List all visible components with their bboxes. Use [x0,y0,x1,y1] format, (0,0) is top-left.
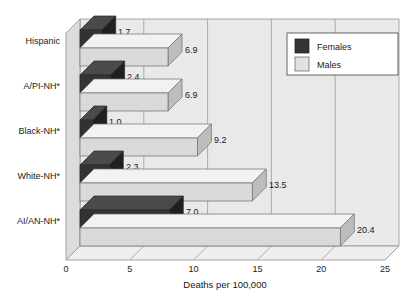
xtick-10: 10 [189,264,199,274]
category-label-api: A/PI-NH* [23,81,60,91]
xtick-5: 5 [127,264,132,274]
value-label-males-black: 9.2 [214,135,227,145]
legend-label-females: Females [317,42,352,52]
value-label-males-api: 6.9 [185,90,198,100]
value-label-males-hispanic: 6.9 [185,45,198,55]
xtick-0: 0 [63,264,68,274]
bar-males-aian [80,214,354,246]
category-label-hispanic: Hispanic [25,36,60,46]
xtick-25: 25 [380,264,390,274]
legend-swatch-females [295,39,309,53]
category-label-black: Black-NH* [18,126,60,136]
xtick-15: 15 [252,264,262,274]
xtick-20: 20 [316,264,326,274]
x-axis-title: Deaths per 100,000 [183,279,266,290]
legend-label-males: Males [317,60,342,70]
value-label-males-white: 13.5 [269,180,287,190]
chart-container: 1.7 6.9 Hispanic 2.4 6.9 A/PI-NH* 1.0 9.… [0,0,407,291]
category-label-aian: AI/AN-NH* [17,216,61,226]
chart-floor [66,246,399,260]
legend-swatch-males [295,57,309,71]
chart-legend: Females Males [287,33,398,75]
bar-chart-3d: 1.7 6.9 Hispanic 2.4 6.9 A/PI-NH* 1.0 9.… [0,0,407,291]
chart-left-wall [66,19,80,260]
value-label-males-aian: 20.4 [357,225,375,235]
category-label-white: White-NH* [17,171,60,181]
